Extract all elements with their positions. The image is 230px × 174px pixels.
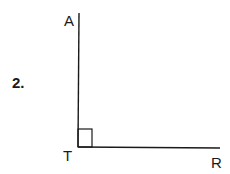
ray-TA xyxy=(78,13,79,147)
ray-TR xyxy=(78,147,220,148)
problem-number: 2. xyxy=(12,75,25,90)
angle-diagram xyxy=(0,0,230,174)
right-angle-marker xyxy=(78,129,92,147)
point-label-R: R xyxy=(211,155,222,170)
point-label-T: T xyxy=(63,148,72,163)
point-label-A: A xyxy=(64,13,74,28)
